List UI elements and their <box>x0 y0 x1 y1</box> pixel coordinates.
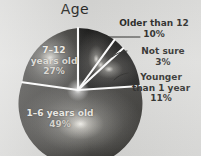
age-pie-chart: Age <box>0 0 201 156</box>
label-not-sure: Not sure 3% <box>129 46 197 67</box>
label-younger-than-1-year-percent: 11% <box>124 93 198 104</box>
label-older-than-12-text: Older than 12 <box>119 18 189 28</box>
chart-title: Age <box>0 1 150 17</box>
label-7-12-years-old-line2: years old <box>24 56 84 67</box>
label-7-12-years-old-line1: 7–12 <box>42 45 65 55</box>
label-younger-than-1-year-line1: Younger <box>140 72 182 82</box>
label-7-12-years-old-percent: 27% <box>24 66 84 77</box>
label-older-than-12: Older than 12 10% <box>111 18 197 39</box>
label-older-than-12-percent: 10% <box>111 29 197 40</box>
label-not-sure-percent: 3% <box>129 57 197 68</box>
label-younger-than-1-year-line2: than 1 year <box>124 83 198 94</box>
label-1-6-years-old-percent: 49% <box>17 119 103 130</box>
label-not-sure-text: Not sure <box>141 46 184 56</box>
label-1-6-years-old-text: 1–6 years old <box>27 108 94 118</box>
label-1-6-years-old: 1–6 years old 49% <box>17 108 103 129</box>
label-7-12-years-old: 7–12 years old 27% <box>24 45 84 77</box>
label-younger-than-1-year: Younger than 1 year 11% <box>124 72 198 104</box>
